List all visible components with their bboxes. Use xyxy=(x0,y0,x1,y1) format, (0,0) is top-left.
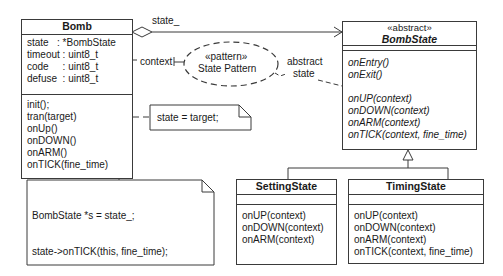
class-bomb-attributes: state : *BombState timeout : uint8_t cod… xyxy=(22,35,132,95)
inheritance-triangle xyxy=(403,150,413,160)
class-bomb-operations: init(); tran(target) onUp() onDOWN() onA… xyxy=(22,95,132,171)
operation: onDOWN(context) xyxy=(242,222,336,234)
operation: onUP(context) xyxy=(354,210,483,222)
class-settingstate-operations: onUP(context) onDOWN(context) onARM(cont… xyxy=(237,205,336,246)
attribute: defuse : uint8_t xyxy=(27,73,132,85)
role-label-context: context xyxy=(140,56,172,68)
class-timingstate-name: TimingState xyxy=(349,180,483,195)
operation: onDOWN(context) xyxy=(348,105,476,117)
attribute: timeout : uint8_t xyxy=(27,49,132,61)
operation: init(); xyxy=(27,99,132,111)
operation: onDOWN() xyxy=(27,135,132,147)
role-label-state: state xyxy=(293,68,315,80)
tran-note-text: state = target; xyxy=(157,112,218,124)
code-line: state->onTICK(this, fine_time); xyxy=(32,246,190,258)
operation: onTICK(context, fine_time) xyxy=(348,129,476,141)
tick-note-text: BombState *s = state_; state->onTICK(thi… xyxy=(32,185,190,276)
association-state xyxy=(132,27,342,37)
operation: onUp() xyxy=(27,123,132,135)
pattern-stereotype: «pattern» xyxy=(205,51,247,63)
class-settingstate-attributes xyxy=(237,195,336,205)
operation: onTICK(context, fine_time) xyxy=(354,246,483,258)
operation: onDOWN(context) xyxy=(354,222,483,234)
class-bombstate[interactable]: «abstract» BombState onEntry() onExit() … xyxy=(342,21,477,150)
code-line: BombState *s = state_; xyxy=(32,210,190,222)
aggregation-diamond xyxy=(132,27,152,37)
role-label-abstract: abstract xyxy=(287,56,323,68)
class-bombstate-operations: onEntry() onExit() onUP(context) onDOWN(… xyxy=(343,51,476,141)
class-timingstate-operations: onUP(context) onDOWN(context) onARM(cont… xyxy=(349,205,483,258)
pattern-name: State Pattern xyxy=(198,63,256,75)
operation: onEntry() xyxy=(348,57,476,69)
operation: onARM(context) xyxy=(354,234,483,246)
class-bombstate-name: BombState xyxy=(343,33,476,45)
class-bomb[interactable]: Bomb state : *BombState timeout : uint8_… xyxy=(21,19,133,179)
abstract-state-role-line xyxy=(275,73,286,76)
operation: onUP(context) xyxy=(242,210,336,222)
generalization xyxy=(288,150,448,179)
class-bombstate-header: «abstract» BombState xyxy=(343,22,476,46)
operation: onUP(context) xyxy=(348,93,476,105)
association-label-state: state_ xyxy=(152,15,179,27)
operation: onARM(context) xyxy=(348,117,476,129)
attribute: state : *BombState xyxy=(27,37,132,49)
operation: onExit() xyxy=(348,69,476,81)
class-settingstate[interactable]: SettingState onUP(context) onDOWN(contex… xyxy=(236,179,337,265)
operation: tran(target) xyxy=(27,111,132,123)
operation: onTICK(fine_time) xyxy=(27,159,132,171)
class-bomb-name: Bomb xyxy=(22,20,132,35)
class-settingstate-name: SettingState xyxy=(237,180,336,195)
stereotype-abstract: «abstract» xyxy=(343,22,476,33)
attribute: code : uint8_t xyxy=(27,61,132,73)
class-timingstate-attributes xyxy=(349,195,483,205)
operation: onARM(context) xyxy=(242,234,336,246)
class-timingstate[interactable]: TimingState onUP(context) onDOWN(context… xyxy=(348,179,484,264)
operation: onARM() xyxy=(27,147,132,159)
